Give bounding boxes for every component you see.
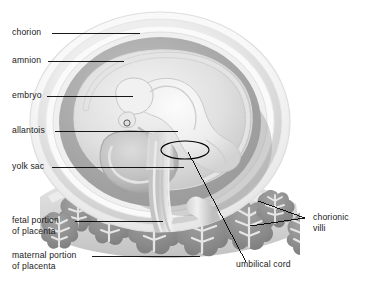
label-umbilical-cord: umbilical cord — [236, 259, 291, 270]
label-chorionic-villi-line1: chorionic — [313, 212, 349, 223]
label-embryo: embryo — [12, 90, 42, 101]
label-allantois: allantois — [12, 125, 45, 136]
embryo-placenta-diagram — [0, 0, 374, 288]
label-chorionic-villi-line2: villi — [313, 223, 326, 234]
label-yolk-sac: yolk sac — [12, 161, 44, 172]
label-maternal-portion-line1: maternal portion — [12, 250, 77, 261]
label-fetal-portion-line1: fetal portion — [12, 215, 59, 226]
label-maternal-portion-line2: of placenta — [12, 261, 56, 272]
label-fetal-portion-line2: of placenta — [12, 226, 56, 237]
label-chorion: chorion — [12, 27, 41, 38]
cord-sheath — [146, 129, 174, 171]
label-amnion: amnion — [12, 55, 41, 66]
embryo-eye — [124, 120, 130, 126]
